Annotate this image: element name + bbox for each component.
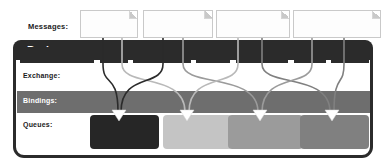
queue-box [90,115,159,149]
exchange-block [133,47,191,63]
diagram-canvas: Broker Messages: Exchange: Bindings: Que… [0,0,386,165]
message-card [293,10,381,38]
messages-row-label: Messages: [28,22,68,31]
message-card [143,10,213,38]
folded-corner-icon [129,11,137,19]
bindings-row-label: Bindings: [23,97,57,104]
exchange-block [100,47,128,63]
folded-corner-icon [281,11,289,19]
bindings-band [17,91,370,113]
queue-box [300,115,369,149]
message-card [80,10,138,38]
message-card [216,10,290,38]
queue-box [228,115,303,149]
exchange-block [236,47,288,63]
exchange-block [196,47,230,63]
queues-row-label: Queues: [23,121,52,128]
exchange-block [20,47,94,63]
exchange-row-label: Exchange: [23,72,60,79]
queue-box [163,115,232,149]
folded-corner-icon [204,11,212,19]
folded-corner-icon [372,11,380,19]
exchange-block [331,47,369,63]
exchange-block [294,47,326,63]
